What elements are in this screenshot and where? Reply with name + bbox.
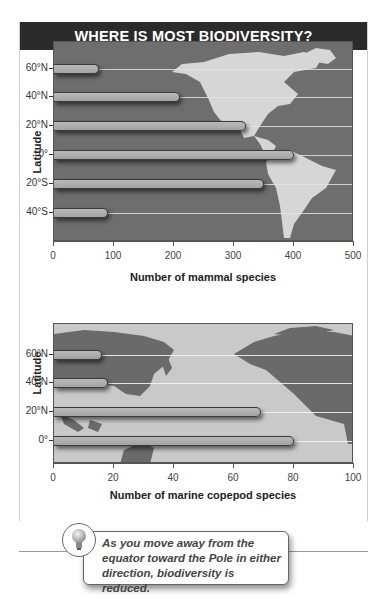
callout-line: direction, biodiversity is reduced.: [102, 566, 282, 596]
key-takeaway-callout: As you move away from the equator toward…: [83, 531, 289, 585]
y-tick-label: 40°N: [8, 90, 48, 101]
x-axis-line: [53, 241, 353, 242]
mammal-plot-area: [53, 41, 353, 241]
x-tick-mark: [293, 241, 294, 246]
y-tick-label: 40°S: [8, 206, 48, 217]
y-tick-label: 20°N: [8, 405, 48, 416]
x-tick-label: 40: [158, 472, 188, 483]
bar: [54, 92, 180, 102]
x-tick-mark: [233, 241, 234, 246]
y-tick-label: 40°N: [8, 376, 48, 387]
callout-line: As you move away from the: [102, 536, 282, 551]
x-tick-mark: [53, 241, 54, 246]
y-axis-label: Latitude: [31, 333, 43, 413]
x-tick-label: 500: [338, 250, 368, 261]
bar: [54, 378, 108, 388]
x-axis-label: Number of mammal species: [53, 271, 353, 283]
x-tick-label: 0: [38, 472, 68, 483]
bar: [54, 121, 246, 131]
x-tick-mark: [173, 241, 174, 246]
y-tick-label: 20°N: [8, 119, 48, 130]
bar: [54, 436, 294, 446]
bar: [54, 64, 99, 74]
callout-rule-left: [19, 551, 67, 552]
x-axis-label: Number of marine copepod species: [53, 489, 353, 501]
x-tick-mark: [233, 463, 234, 468]
x-tick-label: 200: [158, 250, 188, 261]
x-tick-mark: [353, 241, 354, 246]
x-tick-label: 0: [38, 250, 68, 261]
x-tick-mark: [53, 463, 54, 468]
x-tick-mark: [113, 463, 114, 468]
x-tick-label: 400: [278, 250, 308, 261]
x-tick-label: 20: [98, 472, 128, 483]
x-tick-mark: [173, 463, 174, 468]
y-tick-label: 0°: [8, 148, 48, 159]
bar: [54, 407, 261, 417]
callout-rule-right: [289, 551, 368, 552]
x-tick-mark: [113, 241, 114, 246]
x-tick-label: 60: [218, 472, 248, 483]
bar: [54, 150, 294, 160]
bar: [54, 179, 264, 189]
bar: [54, 208, 108, 218]
lightbulb-badge: [62, 523, 96, 557]
lightbulb-icon: [70, 528, 88, 552]
callout-line: equator toward the Pole in either: [102, 551, 282, 566]
x-tick-label: 80: [278, 472, 308, 483]
x-tick-mark: [293, 463, 294, 468]
x-tick-label: 100: [98, 250, 128, 261]
y-tick-label: 60°N: [8, 62, 48, 73]
y-tick-label: 20°S: [8, 177, 48, 188]
x-tick-label: 300: [218, 250, 248, 261]
x-tick-label: 100: [338, 472, 368, 483]
copepod-plot-area: [53, 323, 353, 463]
x-tick-mark: [353, 463, 354, 468]
x-axis-line: [53, 463, 353, 464]
y-tick-label: 0°: [8, 434, 48, 445]
bar: [54, 350, 102, 360]
y-tick-label: 60°N: [8, 348, 48, 359]
